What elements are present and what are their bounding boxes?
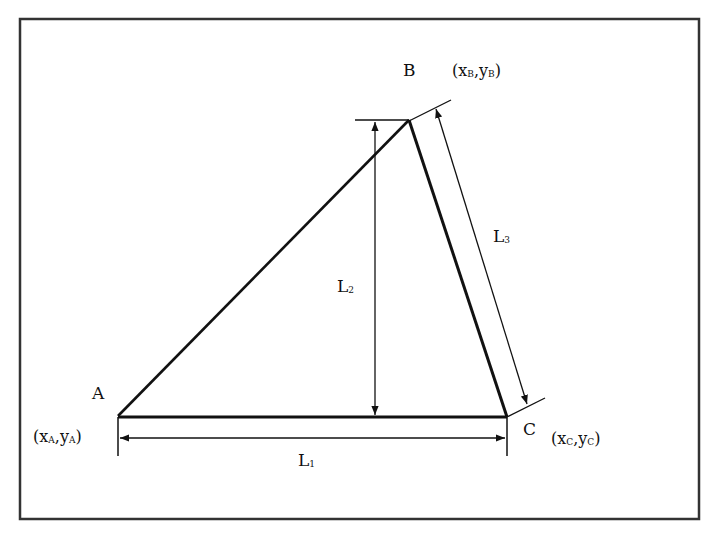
point-label-a: A xyxy=(92,385,104,402)
len-sub: 3 xyxy=(504,235,510,245)
len-sub: 2 xyxy=(348,285,354,295)
triangle-diagram xyxy=(0,0,716,541)
coord-y: y xyxy=(60,427,69,446)
paren-close: ) xyxy=(75,427,81,446)
dimension-label-l1: L1 xyxy=(298,452,315,469)
coord-y: y xyxy=(578,429,587,448)
paren-close: ) xyxy=(495,61,501,80)
dimension-label-l3: L3 xyxy=(493,228,510,245)
dimension-label-l2: L2 xyxy=(337,278,354,295)
len-sub: 1 xyxy=(309,459,315,469)
point-label-b: B xyxy=(403,62,416,79)
coord-x: x xyxy=(39,427,48,446)
len-base: L xyxy=(298,450,309,470)
coord-y-sub: B xyxy=(488,69,495,79)
paren-close: ) xyxy=(594,429,600,448)
len-base: L xyxy=(493,226,504,246)
side-bc xyxy=(409,120,507,417)
point-label-c: C xyxy=(523,421,536,438)
len-base: L xyxy=(337,276,348,296)
coord-x: x xyxy=(557,429,566,448)
coord-label-a: (xA,yA) xyxy=(33,429,82,445)
side-ab xyxy=(118,120,409,416)
coord-y: y xyxy=(479,61,488,80)
extension-line-b-oblique xyxy=(405,100,451,123)
dimension-line-l3 xyxy=(436,109,527,404)
coord-label-b: (xB,yB) xyxy=(452,63,501,79)
coord-x: x xyxy=(458,61,467,80)
coord-label-c: (xC,yC) xyxy=(551,431,600,447)
coord-x-sub: B xyxy=(467,69,474,79)
